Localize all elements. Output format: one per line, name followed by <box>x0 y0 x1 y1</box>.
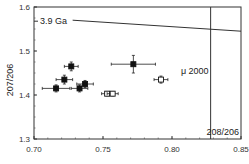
filled-square-marker <box>131 62 136 67</box>
isochron-label: 3.9 Ga <box>40 16 67 26</box>
reference-lines: 3.9 Gaμ 2000208/206 <box>34 7 241 139</box>
open-square-marker <box>158 77 163 82</box>
filled-square-marker <box>54 86 59 91</box>
filled-square-marker <box>77 86 82 91</box>
filled-square-marker <box>69 64 74 69</box>
data-point <box>111 55 155 73</box>
y-tick-label: 1.4 <box>19 91 31 100</box>
y-tick-label: 1.5 <box>19 47 31 56</box>
x-tick-label: 0.85 <box>233 145 249 154</box>
x-axis-label: 208/206 <box>206 127 239 137</box>
y-tick-label: 1.6 <box>19 3 31 12</box>
data-point <box>56 75 73 84</box>
plot-frame <box>34 7 241 139</box>
scatter-chart: 1.31.41.51.60.700.750.800.85 3.9 Gaμ 200… <box>0 0 249 164</box>
filled-square-marker <box>83 82 88 87</box>
y-tick-label: 1.3 <box>19 135 31 144</box>
isochron-line <box>73 20 241 31</box>
plot-border <box>34 7 241 139</box>
open-square-marker <box>110 91 115 96</box>
filled-square-marker <box>62 77 67 82</box>
data-point <box>154 76 168 83</box>
x-tick-label: 0.70 <box>26 145 42 154</box>
data-point <box>42 85 70 92</box>
x-tick-label: 0.75 <box>95 145 111 154</box>
mu-label: μ 2000 <box>181 66 209 76</box>
x-tick-label: 0.80 <box>164 145 180 154</box>
y-axis-label: 207/206 <box>5 64 15 97</box>
data-points <box>42 55 168 96</box>
data-point <box>64 62 78 71</box>
